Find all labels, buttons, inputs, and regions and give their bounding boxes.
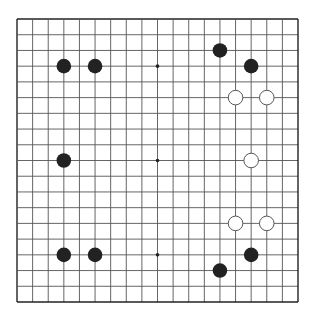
- star-point-icon: [156, 159, 160, 163]
- white-stone[interactable]: [244, 153, 259, 168]
- star-point-icon: [156, 64, 160, 68]
- black-stone[interactable]: [88, 59, 103, 74]
- black-stone[interactable]: [57, 59, 72, 74]
- go-board[interactable]: [0, 0, 314, 324]
- black-stone[interactable]: [57, 153, 72, 168]
- white-stone[interactable]: [228, 216, 243, 231]
- star-point-icon: [156, 253, 160, 257]
- black-stone[interactable]: [213, 263, 228, 278]
- white-stone[interactable]: [228, 90, 243, 105]
- white-stone[interactable]: [259, 216, 274, 231]
- white-stone[interactable]: [259, 90, 274, 105]
- black-stone[interactable]: [244, 248, 259, 263]
- black-stone[interactable]: [244, 59, 259, 74]
- black-stone[interactable]: [213, 43, 228, 58]
- black-stone[interactable]: [57, 248, 72, 263]
- black-stone[interactable]: [88, 248, 103, 263]
